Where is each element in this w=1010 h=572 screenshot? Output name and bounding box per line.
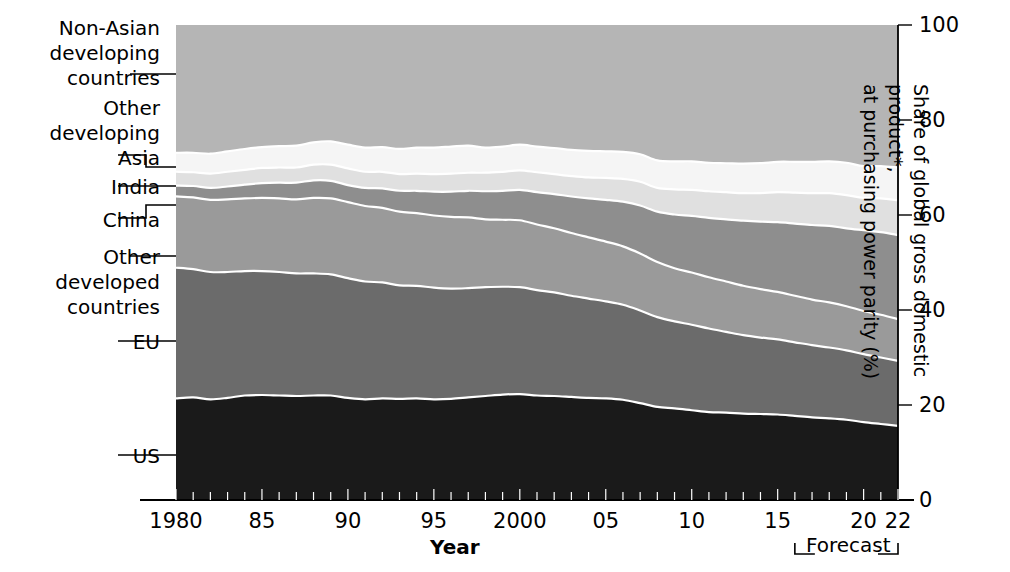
stacked-areas [176, 25, 898, 500]
series-label-non-asian-developing-countries: Non-Asian developing countries [49, 16, 160, 91]
series-label-line: EU [133, 330, 160, 354]
x-tick-label: 2000 [493, 509, 546, 533]
series-label-other-developing-asia: Other developing Asia [49, 96, 160, 171]
x-tick-label: 90 [335, 509, 362, 533]
series-label-line: US [133, 444, 160, 468]
x-tick-label: 05 [592, 509, 619, 533]
series-label-line: China [103, 208, 160, 232]
x-tick-label: 85 [249, 509, 276, 533]
y-axis-title: Share of global gross domestic product*,… [858, 84, 933, 424]
x-axis-title: Year [430, 535, 480, 559]
forecast-label: Forecast [806, 533, 891, 557]
series-label-india: India [111, 175, 160, 199]
series-label-line: Non-Asian [49, 16, 160, 41]
series-label-us: US [133, 444, 160, 468]
series-label-line: Other [49, 96, 160, 121]
series-labels-panel: Non-Asian developing countries Other dev… [0, 0, 170, 572]
x-tick-label: 22 [885, 509, 912, 533]
series-label-line: developing [49, 41, 160, 66]
x-tick-label: 95 [420, 509, 447, 533]
series-label-other-developed-countries: Other developed countries [55, 245, 160, 320]
series-label-line: Asia [49, 146, 160, 171]
y-tick-label: 0 [919, 488, 932, 512]
series-label-line: Other [55, 245, 160, 270]
series-label-line: countries [49, 66, 160, 91]
y-axis-title-line: at purchasing power parity (%) [858, 84, 883, 424]
series-label-line: countries [55, 295, 160, 320]
series-label-eu: EU [133, 330, 160, 354]
x-tick-label: 15 [764, 509, 791, 533]
series-label-line: developed [55, 270, 160, 295]
stacked-area-chart: 020406080100 198085909520000510152022 No… [0, 0, 1010, 572]
x-tick-label: 20 [850, 509, 877, 533]
y-axis-title-line: Share of global gross domestic product*, [883, 84, 933, 424]
series-label-china: China [103, 208, 160, 232]
series-label-line: developing [49, 121, 160, 146]
x-tick-label: 10 [678, 509, 705, 533]
y-tick-label: 100 [919, 13, 959, 37]
series-label-line: India [111, 175, 160, 199]
